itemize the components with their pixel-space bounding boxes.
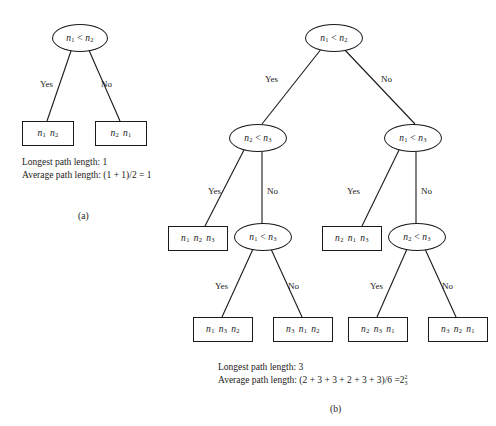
edge-label-b-right-yes: Yes (347, 186, 360, 196)
stat-a-average: Average path length: (1 + 1)/2 = 1 (22, 170, 152, 180)
edge-label-b-RR-yes: Yes (370, 281, 383, 291)
node-b-left-lhs: n2 (244, 133, 252, 143)
node-a-root: n1<n2 (52, 24, 108, 52)
node-b-RR-rhs: n3 (422, 232, 430, 242)
leaf-b-4-item-2: n1 (299, 324, 308, 334)
edge-label-b-RR-no: No (442, 281, 453, 291)
caption-a: (a) (78, 211, 89, 221)
stat-b-longest-value: 3 (298, 362, 303, 372)
decision-tree-figure: n1<n2 Yes No n1n2 n2n1 Longest path leng… (0, 0, 496, 426)
leaf-b-4-item-3: n2 (311, 324, 320, 334)
leaf-b-1-item-1: n1 (181, 233, 190, 243)
node-b-root-right: n2 (339, 33, 347, 43)
edge-label-b-root-no: No (381, 74, 392, 84)
edge-label-b-left-no: No (267, 186, 278, 196)
edge-label-b-LR-yes: Yes (215, 281, 228, 291)
node-b-left-right: n1<n3 (234, 223, 292, 251)
leaf-a-left-item-2: n2 (50, 128, 59, 138)
edge-b-root-no (343, 48, 415, 124)
node-b-left: n2<n3 (229, 124, 287, 152)
node-b-root-left: n1 (320, 33, 328, 43)
edge-label-b-left-yes: Yes (208, 186, 221, 196)
node-b-right-right: n2<n3 (388, 223, 446, 251)
edge-label-a-yes: Yes (40, 79, 53, 89)
node-b-LR-rhs: n3 (268, 232, 276, 242)
leaf-b-6-item-1: n3 (441, 324, 450, 334)
leaf-b-5-item-2: n3 (374, 324, 383, 334)
caption-b: (b) (330, 404, 341, 414)
node-b-right: n1<n3 (384, 124, 442, 152)
node-b-right-op: < (408, 133, 419, 143)
leaf-b-6-item-3: n1 (466, 324, 475, 334)
leaf-b-4-item-1: n3 (286, 324, 295, 334)
leaf-b-2: n2n1n3 (322, 226, 382, 251)
stat-b-average-label: Average path length: (218, 375, 297, 385)
leaf-a-right-item-2: n1 (123, 128, 132, 138)
edge-b-R-yes (362, 148, 400, 226)
stat-a-average-label: Average path length: (22, 170, 101, 180)
leaf-b-3-item-3: n2 (231, 324, 240, 334)
stat-b-longest: Longest path length: 3 (218, 362, 303, 372)
leaf-b-1: n1n2n3 (168, 226, 228, 251)
leaf-b-5-item-1: n2 (361, 324, 370, 334)
leaf-b-2-item-2: n1 (348, 233, 357, 243)
stat-b-average-result-fraction: 23 (405, 375, 408, 386)
edge-label-a-no: No (101, 79, 112, 89)
leaf-b-3-item-2: n3 (219, 324, 228, 334)
leaf-b-2-item-3: n3 (360, 233, 369, 243)
node-a-root-right: n2 (85, 33, 93, 43)
node-b-left-rhs: n3 (263, 133, 271, 143)
leaf-b-5: n2n3n1 (348, 317, 408, 342)
edge-label-b-right-no: No (421, 186, 432, 196)
node-b-right-lhs: n1 (399, 133, 407, 143)
node-a-root-op: < (75, 33, 86, 43)
node-a-root-left: n1 (66, 33, 74, 43)
leaf-b-6: n3n2n1 (428, 317, 488, 342)
leaf-b-5-item-3: n1 (386, 324, 395, 334)
stat-b-longest-label: Longest path length: (218, 362, 296, 372)
node-b-left-op: < (253, 133, 264, 143)
leaf-b-1-item-3: n3 (206, 233, 215, 243)
node-b-RR-op: < (412, 232, 423, 242)
leaf-a-right-item-1: n2 (110, 128, 119, 138)
leaf-b-1-item-2: n2 (194, 233, 203, 243)
leaf-b-6-item-2: n2 (454, 324, 463, 334)
leaf-b-3: n1n3n2 (193, 317, 253, 342)
edge-label-b-root-yes: Yes (265, 74, 278, 84)
stat-a-longest-value: 1 (102, 157, 107, 167)
leaf-b-4: n3n1n2 (273, 317, 333, 342)
leaf-a-left-item-1: n1 (37, 128, 46, 138)
node-b-LR-op: < (258, 232, 269, 242)
stat-b-average: Average path length: (2 + 3 + 3 + 2 + 3 … (218, 375, 408, 386)
fraction-denominator: 3 (405, 381, 408, 387)
stat-a-average-expr: (1 + 1)/2 = 1 (103, 170, 151, 180)
leaf-a-right: n2n1 (95, 121, 147, 146)
leaf-b-2-item-1: n2 (335, 233, 344, 243)
node-b-root-op: < (329, 33, 340, 43)
stat-b-average-expr: (2 + 3 + 3 + 2 + 3 + 3)/6 = (299, 375, 400, 385)
leaf-a-left: n1n2 (22, 121, 74, 146)
node-b-LR-lhs: n1 (249, 232, 257, 242)
node-b-root: n1<n2 (305, 24, 363, 52)
stat-a-longest-label: Longest path length: (22, 157, 100, 167)
node-b-RR-lhs: n2 (403, 232, 411, 242)
stat-a-longest: Longest path length: 1 (22, 157, 107, 167)
leaf-b-3-item-1: n1 (206, 324, 215, 334)
edge-b-root-yes (262, 48, 322, 124)
edge-label-b-LR-no: No (288, 281, 299, 291)
node-b-right-rhs: n3 (418, 133, 426, 143)
